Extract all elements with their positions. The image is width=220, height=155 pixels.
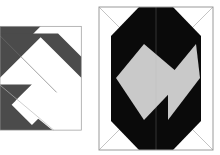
figure-left-container [0,0,90,155]
figure-right-container [96,0,220,155]
figure-canvas [0,0,220,155]
figure-left-diagonal-band-square [0,0,90,155]
figure-right-octagon-with-gray-diamonds [96,0,220,155]
